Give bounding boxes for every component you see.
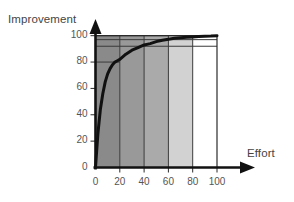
y-tick-label-0: 0 — [82, 161, 88, 172]
y-tick-label-80: 80 — [76, 55, 87, 66]
band-40-60 — [144, 36, 168, 168]
y-axis-arrowhead — [90, 19, 102, 34]
y-tick-label-60: 60 — [76, 81, 87, 92]
shaded-bands-group — [96, 36, 218, 168]
chart-canvas — [0, 0, 294, 202]
x-tick-label-100: 100 — [203, 176, 231, 187]
x-axis-arrowhead — [240, 162, 255, 174]
y-tick-label-100: 100 — [71, 29, 88, 40]
band-60-80 — [168, 36, 192, 168]
diminishing-returns-chart: Improvement Effort 020406080100020406080… — [0, 0, 294, 202]
y-tick-label-40: 40 — [76, 108, 87, 119]
x-axis-title: Effort — [247, 147, 275, 159]
band-80-100 — [193, 36, 217, 168]
band-0-20 — [96, 36, 120, 168]
y-tick-label-20: 20 — [76, 134, 87, 145]
y-axis-title: Improvement — [8, 13, 76, 25]
